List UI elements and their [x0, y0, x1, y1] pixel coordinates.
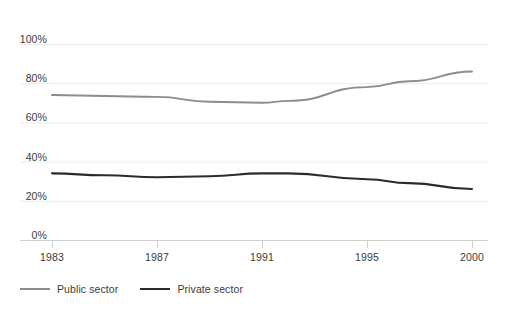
x-axis-tick-label: 1995	[337, 251, 397, 263]
line-chart: 0%20%40%60%80%100%19831987199119952000 P…	[0, 0, 508, 314]
y-axis-tick-label: 0%	[32, 229, 47, 241]
legend-swatch-public-sector	[20, 288, 50, 290]
y-axis-tick-label: 100%	[20, 33, 47, 45]
x-axis-tick-label: 1983	[22, 251, 82, 263]
x-axis-tick-label: 1987	[127, 251, 187, 263]
legend-item-private-sector[interactable]: Private sector	[140, 283, 243, 295]
y-axis-tick-label: 80%	[26, 72, 47, 84]
x-axis-tick-label: 2000	[442, 251, 502, 263]
y-axis-tick-label: 20%	[26, 190, 47, 202]
y-axis-tick-label: 40%	[26, 151, 47, 163]
legend-label-private-sector: Private sector	[177, 283, 243, 295]
legend-label-public-sector: Public sector	[57, 283, 118, 295]
axis-labels-layer: 0%20%40%60%80%100%19831987199119952000	[0, 0, 508, 314]
chart-legend: Public sector Private sector	[20, 283, 243, 295]
legend-swatch-private-sector	[140, 288, 170, 290]
y-axis-tick-label: 60%	[26, 111, 47, 123]
x-axis-tick-label: 1991	[232, 251, 292, 263]
legend-item-public-sector[interactable]: Public sector	[20, 283, 118, 295]
